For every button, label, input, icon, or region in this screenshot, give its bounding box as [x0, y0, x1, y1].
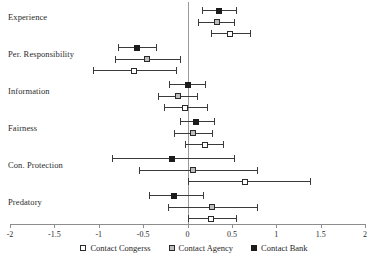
confidence-interval-cap [176, 67, 177, 74]
confidence-interval-cap [236, 7, 237, 14]
estimate-marker [227, 31, 233, 37]
estimate-marker [193, 119, 199, 125]
estimate-row [0, 55, 388, 64]
estimate-marker [242, 179, 248, 185]
estimate-row [0, 6, 388, 15]
x-axis-tick-label: -2 [7, 230, 14, 239]
estimate-marker [134, 45, 140, 51]
confidence-interval-cap [236, 215, 237, 222]
x-axis-tick-label: 0.5 [227, 230, 237, 239]
estimate-marker [175, 93, 181, 99]
confidence-interval-cap [158, 93, 159, 100]
estimate-row [0, 18, 388, 27]
estimate-marker [214, 19, 220, 25]
confidence-interval-cap [234, 155, 235, 162]
x-axis-tick [54, 224, 55, 228]
x-axis-tick [276, 224, 277, 228]
confidence-interval-cap [202, 7, 203, 14]
confidence-interval-cap [180, 118, 181, 125]
confidence-interval-cap [174, 130, 175, 137]
confidence-interval-cap [207, 104, 208, 111]
x-axis-tick-label: 0 [186, 230, 190, 239]
estimate-row [0, 214, 388, 223]
confidence-interval-cap [112, 155, 113, 162]
confidence-interval-cap [188, 178, 189, 185]
legend-item: Contact Bank [251, 243, 308, 253]
x-axis-tick [321, 224, 322, 228]
estimate-marker [131, 68, 137, 74]
estimate-row [0, 80, 388, 89]
legend-marker-icon [80, 245, 86, 251]
confidence-interval-cap [212, 130, 213, 137]
plot-area: -2-1.5-1-0.500.511.52ExperiencePer. Resp… [0, 0, 388, 224]
coefficient-plot: -2-1.5-1-0.500.511.52ExperiencePer. Resp… [0, 0, 388, 267]
estimate-row [0, 29, 388, 38]
x-axis-tick-label: -0.5 [137, 230, 150, 239]
legend-item: Contact Agency [169, 243, 234, 253]
confidence-interval-cap [211, 30, 212, 37]
legend-label: Contact Agency [179, 243, 234, 253]
confidence-interval-cap [180, 56, 181, 63]
confidence-interval-cap [257, 204, 258, 211]
estimate-row [0, 154, 388, 163]
estimate-row [0, 103, 388, 112]
confidence-interval-cap [257, 167, 258, 174]
confidence-interval-cap [168, 204, 169, 211]
estimate-row [0, 43, 388, 52]
confidence-interval-cap [156, 44, 157, 51]
estimate-row [0, 140, 388, 149]
confidence-interval-cap [223, 141, 224, 148]
estimate-marker [171, 193, 177, 199]
x-axis-tick [143, 224, 144, 228]
estimate-row [0, 177, 388, 186]
confidence-interval-cap [197, 93, 198, 100]
estimate-row [0, 66, 388, 75]
x-axis-tick-label: -1.5 [48, 230, 61, 239]
legend-marker-icon [251, 245, 257, 251]
x-axis-tick [232, 224, 233, 228]
legend-item: Contact Congerss [80, 243, 150, 253]
estimate-marker [190, 130, 196, 136]
estimate-row [0, 129, 388, 138]
estimate-row [0, 166, 388, 175]
estimate-marker [182, 105, 188, 111]
confidence-interval-cap [115, 56, 116, 63]
estimate-marker [169, 156, 175, 162]
x-axis-tick-label: 2 [363, 230, 367, 239]
confidence-interval-cap [188, 215, 189, 222]
x-axis-tick [188, 224, 189, 228]
legend-label: Contact Bank [261, 243, 308, 253]
confidence-interval-cap [205, 81, 206, 88]
confidence-interval-cap [250, 30, 251, 37]
x-axis-tick-label: -1 [95, 230, 102, 239]
x-axis-tick-label: 1.5 [316, 230, 326, 239]
estimate-marker [209, 204, 215, 210]
x-axis-tick [365, 224, 366, 228]
confidence-interval-cap [234, 19, 235, 26]
confidence-interval-cap [169, 81, 170, 88]
legend-marker-icon [169, 245, 175, 251]
estimate-row [0, 117, 388, 126]
estimate-row [0, 203, 388, 212]
chart-legend: Contact CongerssContact AgencyContact Ba… [0, 243, 388, 253]
x-axis-tick [99, 224, 100, 228]
estimate-marker [190, 167, 196, 173]
estimate-marker [216, 8, 222, 14]
estimate-marker [185, 82, 191, 88]
legend-label: Contact Congerss [90, 243, 150, 253]
confidence-interval-cap [93, 67, 94, 74]
estimate-row [0, 191, 388, 200]
confidence-interval-cap [164, 104, 165, 111]
confidence-interval-cap [139, 167, 140, 174]
estimate-marker [208, 216, 214, 222]
confidence-interval-cap [198, 19, 199, 26]
x-axis-tick-label: 1 [274, 230, 278, 239]
x-axis-tick [10, 224, 11, 228]
confidence-interval-cap [214, 118, 215, 125]
confidence-interval-cap [310, 178, 311, 185]
confidence-interval-cap [203, 192, 204, 199]
confidence-interval-cap [149, 192, 150, 199]
estimate-marker [202, 142, 208, 148]
confidence-interval-cap [118, 44, 119, 51]
confidence-interval-line [188, 181, 310, 182]
